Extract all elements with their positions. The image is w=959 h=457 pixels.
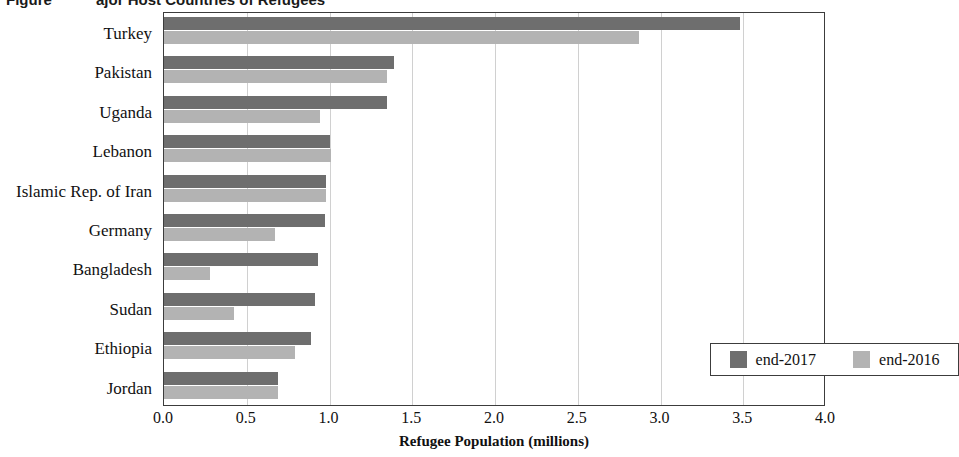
bar-sudan-end-2017	[164, 293, 315, 306]
bar-bangladesh-end-2017	[164, 253, 318, 266]
bar-lebanon-end-2016	[164, 149, 331, 162]
x-axis-tick-3.0: 3.0	[650, 409, 670, 427]
legend-swatch-icon-end-2016	[853, 351, 870, 368]
legend-swatch-icon-end-2017	[730, 351, 747, 368]
bar-germany-end-2017	[164, 214, 325, 227]
bar-jordan-end-2016	[164, 386, 278, 399]
bar-lebanon-end-2017	[164, 135, 330, 148]
legend-label-end-2016: end-2016	[879, 351, 939, 369]
bar-bangladesh-end-2016	[164, 267, 210, 280]
x-axis-tick-1.5: 1.5	[401, 409, 421, 427]
y-axis-label-islamic-rep-of-iran: Islamic Rep. of Iran	[0, 183, 158, 200]
x-axis-tick-1.0: 1.0	[319, 409, 339, 427]
bar-pakistan-end-2016	[164, 70, 387, 83]
bar-germany-end-2016	[164, 228, 275, 241]
chart-legend: end-2017 end-2016	[710, 343, 959, 376]
bar-sudan-end-2016	[164, 307, 234, 320]
bar-jordan-end-2017	[164, 372, 278, 385]
bar-turkey-end-2016	[164, 31, 639, 44]
bar-islamic-rep-of-iran-end-2016	[164, 189, 326, 202]
x-axis-tick-labels: 0.00.51.01.52.02.53.03.54.0	[163, 409, 825, 431]
x-axis-tick-0.5: 0.5	[236, 409, 256, 427]
chart-title-text: ajor Host Countries of Refugees	[96, 0, 325, 8]
y-axis-label-germany: Germany	[0, 222, 158, 239]
x-axis-tick-2.5: 2.5	[567, 409, 587, 427]
chart-title-figure-prefix: Figure	[6, 0, 52, 8]
x-axis-tick-2.0: 2.0	[484, 409, 504, 427]
x-axis-title: Refugee Population (millions)	[163, 433, 825, 450]
y-axis-label-lebanon: Lebanon	[0, 143, 158, 160]
y-axis-category-labels: TurkeyPakistanUgandaLebanonIslamic Rep. …	[0, 12, 158, 406]
legend-entry-end-2016: end-2016	[835, 351, 959, 369]
bar-islamic-rep-of-iran-end-2017	[164, 175, 326, 188]
y-axis-label-turkey: Turkey	[0, 25, 158, 42]
legend-label-end-2017: end-2017	[756, 351, 816, 369]
bar-uganda-end-2016	[164, 110, 320, 123]
bar-pakistan-end-2017	[164, 56, 394, 69]
y-axis-label-sudan: Sudan	[0, 301, 158, 318]
y-axis-label-jordan: Jordan	[0, 380, 158, 397]
bar-ethiopia-end-2016	[164, 346, 295, 359]
bar-uganda-end-2017	[164, 96, 387, 109]
chart-title: Figure ajor Host Countries of Refugees	[0, 0, 834, 9]
y-axis-label-pakistan: Pakistan	[0, 64, 158, 81]
x-axis-tick-0.0: 0.0	[153, 409, 173, 427]
y-axis-label-ethiopia: Ethiopia	[0, 340, 158, 357]
y-axis-label-uganda: Uganda	[0, 104, 158, 121]
plot-area: end-2017 end-2016	[163, 12, 825, 406]
bar-turkey-end-2017	[164, 17, 740, 30]
bar-ethiopia-end-2017	[164, 332, 311, 345]
x-axis-tick-3.5: 3.5	[732, 409, 752, 427]
legend-entry-end-2017: end-2017	[711, 351, 835, 369]
x-axis-tick-4.0: 4.0	[815, 409, 835, 427]
y-axis-label-bangladesh: Bangladesh	[0, 261, 158, 278]
